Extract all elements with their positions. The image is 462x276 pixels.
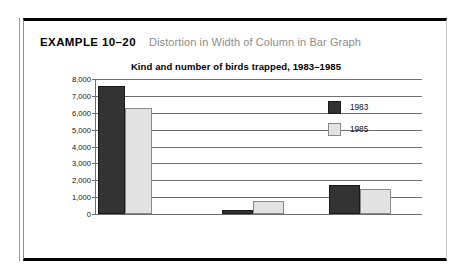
figure-frame: EXAMPLE 10–20 Distortion in Width of Col… [23,18,447,261]
y-axis-tick-label: 8,000 [57,75,91,84]
bar-sparrows-1983 [98,86,125,214]
bar-blackbirds-1985 [253,201,284,214]
y-axis-tickmark [92,130,96,131]
legend-item: 1985 [328,123,402,136]
y-axis-tick-label: 4,000 [57,142,91,151]
y-axis-tickmark [92,113,96,114]
y-axis-tick-label: 3,000 [57,159,91,168]
chart-plot-wrapper: 8,0007,0006,0005,0004,0003,0002,0001,000… [58,79,422,214]
gridline [96,79,422,80]
y-axis-tick-label: 6,000 [57,108,91,117]
y-axis-tickmark [92,180,96,181]
y-axis-tick-label: 5,000 [57,125,91,134]
y-axis-tickmark [92,79,96,80]
bar-sparrows-1985 [125,108,152,214]
y-axis-tickmark [92,197,96,198]
plot-area: 8,0007,0006,0005,0004,0003,0002,0001,000… [96,79,422,214]
bar-starlings-1983 [329,185,360,214]
y-axis-tick-label: 2,000 [57,176,91,185]
left-margin-rule [19,18,20,261]
figure-page: EXAMPLE 10–20 Distortion in Width of Col… [0,0,462,276]
gridline [96,96,422,97]
example-caption-text: Distortion in Width of Column in Bar Gra… [149,36,361,48]
chart-legend: 19831985 [328,101,402,145]
y-axis-tick-label: 0 [57,210,91,219]
example-header: EXAMPLE 10–20 Distortion in Width of Col… [40,36,361,48]
y-axis-tickmark [92,96,96,97]
bar-starlings-1985 [360,189,391,214]
dark-swatch-icon [328,101,341,114]
light-swatch-icon [328,123,341,136]
chart-title: Kind and number of birds trapped, 1983–1… [24,61,448,72]
y-axis-tick-label: 1,000 [57,193,91,202]
example-number-label: EXAMPLE 10–20 [40,36,136,48]
legend-item-label: 1983 [350,103,368,112]
bar-blackbirds-1983 [222,210,253,214]
y-axis-tickmark [92,163,96,164]
y-axis-tick-label: 7,000 [57,91,91,100]
y-axis-tickmark [92,147,96,148]
gridline [96,214,422,215]
legend-item: 1983 [328,101,402,114]
y-axis-tickmark [92,214,96,215]
legend-item-label: 1985 [350,125,368,134]
